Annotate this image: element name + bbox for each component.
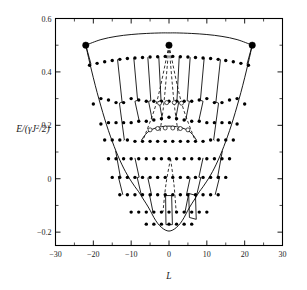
level-dot [148,193,151,196]
level-dot [232,138,235,141]
x-tick-label: 0 [167,250,171,259]
level-dot [160,210,163,213]
level-points [88,55,250,226]
y-tick-label: 0.6 [42,15,52,24]
outer-parabola [86,45,252,231]
level-dot [167,222,170,225]
level-dot [148,55,151,58]
separatrix-dot [156,127,160,131]
level-dot [122,121,125,124]
level-dot [126,138,129,141]
y-tick-label: −0.2 [37,228,52,237]
level-dot [92,102,95,105]
level-dot [103,138,106,141]
x-tick-label: −30 [49,250,62,259]
box-center [166,196,173,225]
level-dot [107,121,110,124]
figure-container: −30−20−100102030 −0.200.20.40.6 L E/(γJ2… [0,0,307,290]
separatrix-dot [179,101,183,105]
level-dot [133,176,136,179]
level-dot [216,176,219,179]
level-dot [95,62,98,65]
level-dot [209,176,212,179]
level-dot [167,157,170,160]
level-dot [182,118,185,121]
level-dot [148,140,151,143]
separatrix-dot [172,101,176,105]
level-dot [145,100,148,103]
level-dot [129,97,132,100]
level-dot [186,193,189,196]
x-tick-label: 20 [241,250,249,259]
level-dot [194,176,197,179]
level-dot [141,176,144,179]
level-dot [224,138,227,141]
level-dot [213,101,216,104]
level-dot [182,210,185,213]
level-dot [190,100,193,103]
level-dot [152,222,155,225]
band-head-dot [166,42,172,48]
level-dot [152,118,155,121]
x-axis-label: L [165,271,171,281]
y-axis-label: E/(γJ2/2) [15,123,49,135]
level-dot [145,210,148,213]
level-dot [160,157,163,160]
separatrix-dot [171,126,175,130]
level-dot [247,64,250,67]
level-dot [194,193,197,196]
level-dot [216,58,219,61]
level-dot [145,120,148,123]
separatrix-dot [163,126,167,130]
level-dot [198,98,201,101]
level-dot [156,176,159,179]
level-dot [182,222,185,225]
level-dot [175,117,178,120]
level-dot [216,193,219,196]
level-dot [179,193,182,196]
level-dot [175,222,178,225]
x-tick-label: −20 [87,250,100,259]
y-tick-label: 0 [48,175,52,184]
level-dot [167,210,170,213]
level-dot [171,140,174,143]
x-axis-tick-labels: −30−20−100102030 [49,250,286,259]
level-dot [111,176,114,179]
y-tick-label: 0.4 [42,68,52,77]
level-dot [171,55,174,58]
level-dot [107,157,110,160]
separatrix-dot [178,127,182,131]
level-dot [111,138,114,141]
level-dot [126,57,129,60]
level-dot [164,193,167,196]
level-dot [137,210,140,213]
level-dot [129,121,132,124]
level-dot [126,193,129,196]
level-dot [156,55,159,58]
level-dot [179,176,182,179]
level-dot [216,138,219,141]
level-dot [118,176,121,179]
level-dot [190,120,193,123]
level-dot [141,140,144,143]
level-dot [175,157,178,160]
level-dot [167,116,170,119]
level-dot [141,56,144,59]
level-dot [228,98,231,101]
level-dot [209,138,212,141]
level-dot [118,193,121,196]
level-dot [220,121,223,124]
level-dot [239,62,242,65]
level-dot [114,157,117,160]
level-dot [224,176,227,179]
zigzag-connectors [86,45,252,224]
y-axis-ticks [56,19,283,233]
level-dot [190,157,193,160]
level-dot [122,157,125,160]
level-dot [129,157,132,160]
level-dot [99,122,102,125]
y-axis-label-post: /2) [38,124,50,135]
level-dot [152,210,155,213]
level-dot [137,98,140,101]
separatrix-dot [148,128,152,132]
